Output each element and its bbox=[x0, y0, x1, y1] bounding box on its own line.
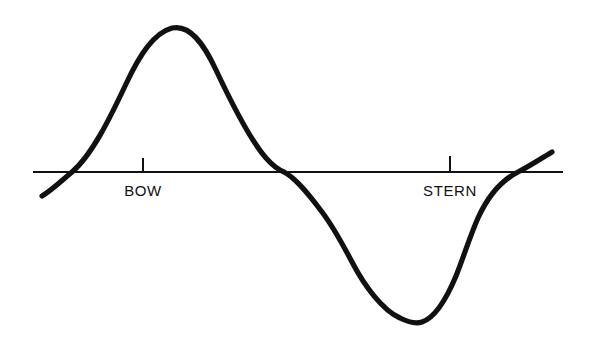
wave-profile-figure: BOW STERN bbox=[0, 0, 593, 347]
wave-diagram-canvas bbox=[0, 0, 593, 347]
axis-label-stern: STERN bbox=[423, 182, 477, 199]
wave-profile-curve bbox=[42, 27, 552, 322]
axis-label-bow: BOW bbox=[124, 182, 162, 199]
